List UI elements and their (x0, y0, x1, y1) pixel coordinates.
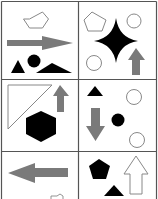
outlined-circle-icon (87, 56, 102, 71)
outlined-circle-icon (127, 14, 141, 28)
black-circle-icon (28, 55, 41, 68)
shape-puzzle-grid (0, 0, 158, 199)
outlined-circle-icon (130, 133, 145, 148)
outlined-circle-icon (127, 90, 142, 105)
black-circle-icon (112, 114, 125, 127)
